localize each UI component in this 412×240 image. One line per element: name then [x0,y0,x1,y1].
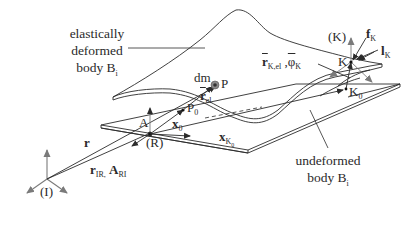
node-frame [318,38,378,90]
mass-label-dm: dm [194,71,211,84]
undeformed-leader [310,110,328,148]
dashed-line [205,107,262,118]
deformed-caption-line3: body Bi [62,59,132,82]
frame-label-node: (K) [328,30,346,43]
vector-label-r: r [84,136,90,149]
vector-label-x0: x0 [172,117,183,133]
point-label-k: K [338,55,347,68]
vector-label-r-ir-a-ri: rIR, ARI [90,163,126,179]
point-label-p: P [221,77,228,90]
vector-label-lk: lK [381,44,390,60]
deformed-body-caption: elastically deformed body Bi [62,25,132,82]
undeformed-caption-line1: undeformed [292,152,364,169]
undeformed-caption-line2: body Bi [292,169,364,192]
point-label-k0: K0 [349,85,362,101]
deformed-caption-line1: elastically [62,25,132,42]
undeformed-body-caption: undeformed body Bi [292,152,364,192]
vector-label-xk0: xK0 [219,130,234,148]
mass-element [211,81,219,89]
point-label-p0: P0 [187,101,198,117]
vector-label-r-el: rel [200,89,212,105]
point-label-a: A [139,116,148,129]
deformed-caption-line2: deformed [62,42,132,59]
vector-label-fk: fK [366,27,376,43]
vector-label-rk-el-phik: rK,el ,φK [262,55,301,71]
frame-label-reference: (R) [146,136,163,149]
frame-label-inertial: (I) [40,185,53,198]
